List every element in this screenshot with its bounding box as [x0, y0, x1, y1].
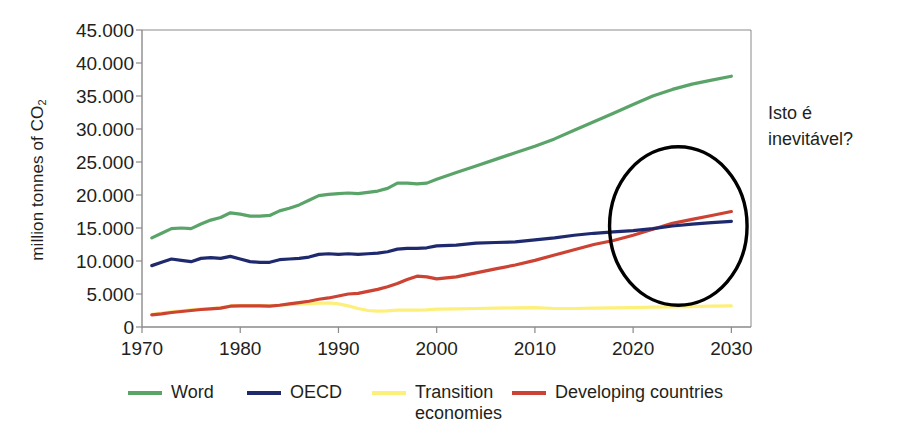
- y-tick-label: 40.000: [38, 54, 134, 73]
- legend-label: Word: [171, 382, 214, 403]
- legend-swatch-icon: [372, 391, 406, 395]
- legend-item[interactable]: Transition economies: [372, 382, 502, 424]
- legend-item[interactable]: OECD: [247, 382, 342, 403]
- y-tick-label: 20.000: [38, 186, 134, 205]
- x-tick-label: 2020: [593, 339, 673, 358]
- y-tick-label: 25.000: [38, 153, 134, 172]
- chart-plot-area: [0, 0, 906, 443]
- chart-legend: WordOECDTransition economiesDeveloping c…: [0, 382, 906, 438]
- legend-swatch-icon: [512, 391, 546, 395]
- x-tick-label: 1970: [102, 339, 182, 358]
- x-tick-label: 2030: [691, 339, 771, 358]
- y-tick-label: 45.000: [38, 21, 134, 40]
- series-line-developing-countries: [152, 212, 732, 315]
- y-tick-label: 10.000: [38, 252, 134, 271]
- y-tick-label: 5.000: [38, 285, 134, 304]
- y-tick-label: 35.000: [38, 87, 134, 106]
- annotation-question-text: Isto é inevitável?: [768, 100, 853, 152]
- x-tick-label: 1990: [298, 339, 378, 358]
- x-tick-label: 2010: [495, 339, 575, 358]
- legend-swatch-icon: [247, 391, 281, 395]
- legend-swatch-icon: [128, 391, 162, 395]
- legend-item[interactable]: Developing countries: [512, 382, 723, 403]
- chart-figure: million tonnes of CO2 05.00010.00015.000…: [0, 0, 906, 443]
- legend-label: Transition economies: [415, 382, 502, 424]
- series-line-oecd: [152, 221, 732, 265]
- y-tick-label: 30.000: [38, 120, 134, 139]
- legend-label: OECD: [290, 382, 342, 403]
- x-tick-label: 1980: [200, 339, 280, 358]
- x-tick-label: 2000: [397, 339, 477, 358]
- y-tick-label: 0: [38, 318, 134, 337]
- legend-item[interactable]: Word: [128, 382, 214, 403]
- legend-label: Developing countries: [555, 382, 723, 403]
- y-tick-label: 15.000: [38, 219, 134, 238]
